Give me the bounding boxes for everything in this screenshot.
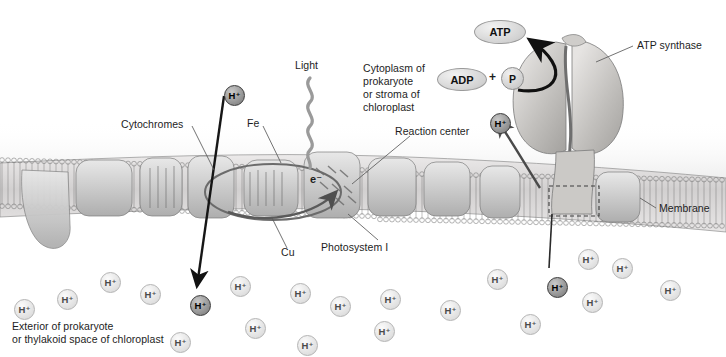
cytoplasm-line-2: prokaryote xyxy=(363,75,413,87)
proton-ion: H⁺ xyxy=(380,289,401,310)
adp-badge: ADP xyxy=(437,68,487,91)
label-membrane: Membrane xyxy=(659,202,710,214)
proton-ion-highlighted: H⁺ xyxy=(190,295,211,316)
proton-ion: H⁺ xyxy=(57,289,78,310)
proton-ion-highlighted: H⁺ xyxy=(490,113,511,134)
proton-ion: H⁺ xyxy=(660,280,681,301)
proton-ion: H⁺ xyxy=(297,335,318,356)
proton-ion: H⁺ xyxy=(612,258,633,279)
proton-ion: H⁺ xyxy=(100,272,121,293)
proton-ion: H⁺ xyxy=(170,332,191,353)
figure-canvas: Light Cytochromes Fe Cu e⁻ Photosystem I… xyxy=(0,0,726,357)
proton-ion: H⁺ xyxy=(245,318,266,339)
proton-ion: H⁺ xyxy=(290,283,311,304)
label-atp-synthase: ATP synthase xyxy=(637,39,702,51)
label-fe: Fe xyxy=(247,117,259,129)
atp-badge: ATP xyxy=(474,20,526,44)
cytoplasm-line-3: or stroma of xyxy=(363,88,420,100)
label-cu: Cu xyxy=(281,246,295,258)
proton-ion-highlighted: H⁺ xyxy=(547,277,568,298)
label-reaction-center: Reaction center xyxy=(395,125,469,137)
proton-ion: H⁺ xyxy=(14,299,35,320)
proton-ion: H⁺ xyxy=(578,249,599,270)
proton-ion: H⁺ xyxy=(330,296,351,317)
exterior-line-2: or thylakoid space of chloroplast xyxy=(12,333,164,345)
proton-ion: H⁺ xyxy=(582,292,603,313)
label-photosystem-one: Photosystem I xyxy=(321,241,388,253)
plus-sign: + xyxy=(489,71,496,83)
proton-ion-highlighted: H⁺ xyxy=(224,85,245,106)
cytoplasm-line-1: Cytoplasm of xyxy=(363,62,425,74)
proton-ion: H⁺ xyxy=(230,276,251,297)
proton-ion: H⁺ xyxy=(140,284,161,305)
exterior-line-1: Exterior of prokaryote xyxy=(12,320,113,332)
proton-ion: H⁺ xyxy=(440,300,461,321)
label-cytochromes: Cytochromes xyxy=(121,118,183,130)
label-light: Light xyxy=(295,59,318,71)
cytoplasm-line-4: chloroplast xyxy=(363,101,414,113)
diagram-artwork xyxy=(0,0,726,357)
label-electron: e⁻ xyxy=(310,173,322,185)
phosphate-badge: P xyxy=(501,67,524,90)
proton-ion: H⁺ xyxy=(520,314,541,335)
proton-ion: H⁺ xyxy=(487,269,508,290)
proton-ion: H⁺ xyxy=(374,321,395,342)
